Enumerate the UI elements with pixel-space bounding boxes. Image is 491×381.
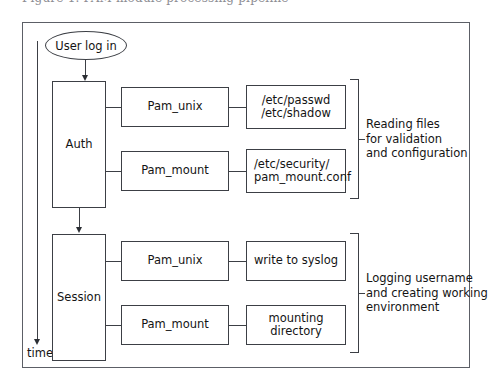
target-box-session-mount-action: mounting directory bbox=[246, 305, 346, 345]
stage-label-auth: Auth bbox=[66, 138, 93, 152]
auth-mount-file-line-1: /etc/security/ bbox=[254, 158, 351, 172]
auth-mount-link-right bbox=[229, 171, 246, 172]
auth-to-session-arrowhead bbox=[76, 227, 82, 233]
time-axis-arrowhead bbox=[34, 339, 40, 345]
auth-unix-file-line-2: /etc/shadow bbox=[261, 107, 331, 121]
module-label-pam-unix-auth: Pam_unix bbox=[148, 100, 203, 114]
module-label-pam-unix-session: Pam_unix bbox=[148, 254, 203, 268]
session-unix-link-right bbox=[229, 261, 246, 262]
target-box-auth-mount-files: /etc/security/ pam_mount.conf bbox=[246, 149, 346, 193]
session-bracket-stub bbox=[359, 293, 365, 294]
session-group-bracket bbox=[350, 233, 359, 353]
auth-unix-file-line-1: /etc/passwd bbox=[261, 94, 331, 108]
auth-mount-file-line-2: pam_mount.conf bbox=[254, 171, 351, 185]
auth-annotation-line-2: for validation bbox=[366, 132, 468, 147]
auth-annotation: Reading files for validation and configu… bbox=[366, 117, 468, 161]
module-label-pam-mount-auth: Pam_mount bbox=[141, 164, 209, 178]
auth-mount-link-left bbox=[106, 171, 121, 172]
auth-to-session-connector bbox=[79, 208, 80, 228]
user-login-node: User log in bbox=[45, 31, 127, 60]
session-annotation-line-3: environment bbox=[366, 300, 488, 315]
session-unix-link-left bbox=[106, 261, 121, 262]
stage-box-auth: Auth bbox=[52, 81, 106, 208]
module-box-pam-mount-auth: Pam_mount bbox=[121, 151, 229, 191]
user-login-label: User log in bbox=[55, 39, 117, 53]
module-box-pam-unix-auth: Pam_unix bbox=[121, 87, 229, 127]
session-mount-link-right bbox=[229, 325, 246, 326]
auth-unix-link-right bbox=[229, 107, 246, 108]
auth-group-bracket bbox=[350, 79, 359, 199]
auth-bracket-stub bbox=[359, 139, 365, 140]
session-annotation-line-2: and creating working bbox=[366, 286, 488, 301]
session-annotation: Logging username and creating working en… bbox=[366, 271, 488, 315]
target-box-auth-unix-files: /etc/passwd /etc/shadow bbox=[246, 85, 346, 129]
session-annotation-line-1: Logging username bbox=[366, 271, 488, 286]
figure-caption-sliver: Figure 1. PAM module processing pipeline bbox=[22, 0, 322, 5]
module-box-pam-unix-session: Pam_unix bbox=[121, 241, 229, 281]
stage-label-session: Session bbox=[57, 291, 101, 305]
module-label-pam-mount-session: Pam_mount bbox=[141, 318, 209, 332]
target-box-session-unix-action: write to syslog bbox=[246, 241, 346, 281]
stage-box-session: Session bbox=[52, 234, 106, 361]
auth-annotation-line-1: Reading files bbox=[366, 117, 468, 132]
time-axis-label: time bbox=[27, 346, 53, 360]
module-box-pam-mount-session: Pam_mount bbox=[121, 305, 229, 345]
session-mount-action-line-1: mounting directory bbox=[247, 312, 345, 339]
auth-unix-link-left bbox=[106, 107, 121, 108]
session-mount-link-left bbox=[106, 325, 121, 326]
login-to-auth-connector bbox=[85, 60, 86, 76]
auth-annotation-line-3: and configuration bbox=[366, 146, 468, 161]
session-unix-action-line-1: write to syslog bbox=[254, 254, 338, 268]
diagram-frame: time User log in Auth Pam_unix /etc/pass… bbox=[22, 22, 470, 368]
time-axis-line bbox=[37, 41, 38, 341]
